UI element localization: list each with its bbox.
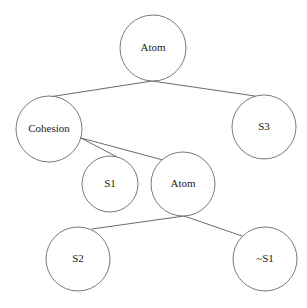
node-circle[interactable] [232, 95, 296, 159]
graph-edge [81, 138, 163, 160]
node-circle[interactable] [233, 227, 297, 291]
graph-node[interactable]: S1 [82, 156, 138, 212]
graph-node[interactable]: S2 [46, 227, 110, 291]
graph-node[interactable]: ~S1 [233, 227, 297, 291]
graph-node[interactable]: Atom [151, 152, 215, 216]
node-circle[interactable] [151, 152, 215, 216]
graph-node[interactable]: Atom [120, 15, 186, 81]
graph-node[interactable]: S3 [232, 95, 296, 159]
edge-layer [49, 81, 255, 236]
node-circle[interactable] [16, 96, 82, 162]
node-circle[interactable] [46, 227, 110, 291]
graph-edge [92, 216, 184, 229]
graph-canvas: AtomCohesionS3S1AtomS2~S1 [0, 0, 307, 308]
graph-edge [184, 216, 242, 236]
graph-edge [152, 81, 255, 96]
graph-diagram: AtomCohesionS3S1AtomS2~S1 [0, 0, 307, 308]
node-layer: AtomCohesionS3S1AtomS2~S1 [16, 15, 297, 291]
graph-edge [81, 138, 117, 157]
node-circle[interactable] [82, 156, 138, 212]
graph-node[interactable]: Cohesion [16, 96, 82, 162]
graph-edge [49, 81, 152, 97]
node-circle[interactable] [120, 15, 186, 81]
